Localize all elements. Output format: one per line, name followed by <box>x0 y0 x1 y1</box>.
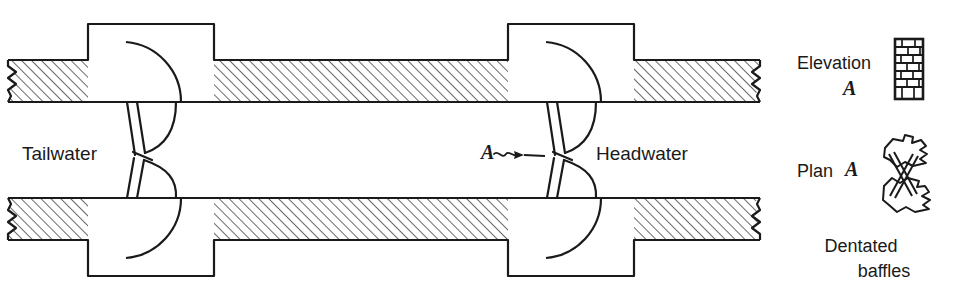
tailwater-label: Tailwater <box>22 143 98 164</box>
legend-plan-label: Plan <box>797 161 833 181</box>
section-marker-a-label: A <box>479 141 494 163</box>
legend-elevation-marker: A <box>841 77 856 99</box>
legend-plan-marker: A <box>843 158 858 180</box>
ladder-grid-icon <box>895 39 923 99</box>
legend-caption-line2: baffles <box>858 261 911 281</box>
legend-elevation-label: Elevation <box>797 53 871 73</box>
legend-caption-line1: Dentated <box>824 236 897 256</box>
figure-canvas: Tailwater Headwater A Elevation A <box>0 0 957 300</box>
headwater-label: Headwater <box>596 143 689 164</box>
